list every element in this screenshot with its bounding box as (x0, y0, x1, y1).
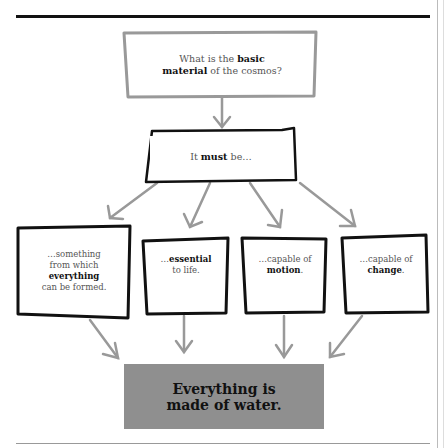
motion-text: …capable of motion. (249, 254, 321, 276)
question-box: What is the basic material of the cosmos… (132, 38, 312, 92)
conclusion-box: Everything is made of water. (124, 364, 324, 429)
change-text: …capable of change. (349, 254, 423, 276)
premise-box: It must be… (150, 136, 292, 176)
criterion-change: …capable of change. (349, 242, 423, 306)
premise-text: It must be… (190, 151, 252, 162)
criterion-everything: …something from which everything can be … (24, 232, 124, 310)
question-text: What is the basic material of the cosmos… (162, 53, 282, 77)
criterion-motion: …capable of motion. (249, 244, 321, 308)
criterion-essential: …essential to life. (150, 244, 222, 308)
